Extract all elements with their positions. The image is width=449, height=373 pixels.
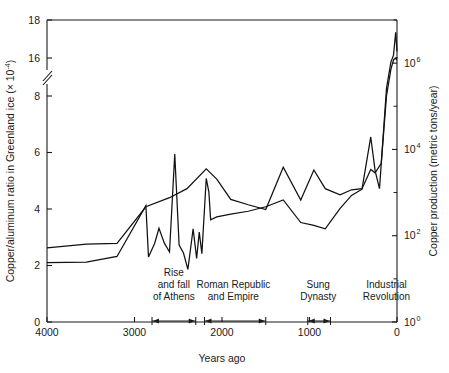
- annotation-industrial-revolution: IndustrialRevolution: [363, 279, 410, 302]
- y2-base: 10: [404, 229, 416, 241]
- x-ticklabel-4000: 4000: [35, 326, 59, 338]
- x-axis-title: Years ago: [199, 352, 246, 364]
- bracket-arrow-right: [259, 318, 265, 323]
- series-line-copper-production: [47, 57, 397, 248]
- y-axis-title-right: Copper production (metric tons/year): [427, 86, 439, 257]
- annotation-label-rise-and-fall-of-athens-line-3: of Athens: [153, 291, 195, 302]
- x-ticklabel-3000: 3000: [123, 326, 147, 338]
- chart-canvas: 02468161810010210410640003000200010000Ri…: [0, 0, 449, 373]
- bracket-arrow-right: [324, 318, 330, 323]
- y-axis-title-left: Copper/aluminum ratio in Greenland ice (…: [3, 60, 16, 283]
- annotation-label-sung-dynasty-line-1: Sung: [307, 279, 330, 290]
- annotation-sung-dynasty: SungDynasty: [300, 279, 336, 325]
- y2-base: 10: [404, 57, 416, 69]
- y-ticklabel-left-18: 18: [28, 14, 40, 26]
- y2-base: 10: [404, 143, 416, 155]
- y2-exponent: 6: [417, 55, 421, 64]
- y-ticklabel-left-8: 8: [34, 90, 40, 102]
- bracket-arrow-left: [153, 318, 159, 323]
- series-line-copper-aluminum-ratio: [47, 32, 397, 269]
- y2-base: 10: [404, 316, 416, 328]
- y-ticklabel-left-2: 2: [34, 259, 40, 271]
- annotation-bracket-roman-republic-and-empire: [205, 317, 266, 325]
- y-ticklabel-right-0: 100: [404, 314, 421, 328]
- bracket-arrow-left: [206, 318, 212, 323]
- y-axis-title-left-text: Copper/aluminum ratio in Greenland ice (…: [3, 60, 16, 283]
- y-axis-title-right-text: Copper production (metric tons/year): [427, 86, 439, 257]
- annotation-label-roman-republic-and-empire-line-1: Roman Republic: [196, 279, 270, 290]
- y2-exponent: 4: [417, 141, 421, 150]
- annotation-label-roman-republic-and-empire-line-2: and Empire: [208, 291, 260, 302]
- annotation-label-sung-dynasty-line-2: Dynasty: [300, 291, 336, 302]
- y2-exponent: 2: [417, 227, 421, 236]
- copper-ratio-chart-figure: 02468161810010210410640003000200010000Ri…: [0, 0, 449, 373]
- annotation-label-rise-and-fall-of-athens-line-1: Rise: [164, 267, 184, 278]
- y-ticklabel-left-4: 4: [34, 203, 40, 215]
- bracket-arrow-right: [189, 318, 195, 323]
- x-ticklabel-1000: 1000: [298, 326, 322, 338]
- x-ticklabel-0: 0: [394, 326, 400, 338]
- x-ticklabel-2000: 2000: [210, 326, 234, 338]
- y-ticklabel-right-2: 102: [404, 227, 421, 241]
- annotation-roman-republic-and-empire: Roman Republicand Empire: [196, 279, 270, 325]
- y-ticklabel-right-4: 104: [404, 141, 421, 155]
- y2-exponent: 0: [417, 314, 421, 323]
- annotation-label-rise-and-fall-of-athens-line-2: and fall: [158, 279, 190, 290]
- y-ticklabel-left-16: 16: [28, 52, 40, 64]
- annotation-bracket-sung-dynasty: [308, 317, 331, 325]
- annotation-label-industrial-revolution-line-1: Industrial: [366, 279, 407, 290]
- annotation-rise-and-fall-of-athens: Riseand fallof Athens: [152, 267, 196, 325]
- annotation-label-industrial-revolution-line-2: Revolution: [363, 291, 410, 302]
- y-ticklabel-left-6: 6: [34, 146, 40, 158]
- annotation-bracket-rise-and-fall-of-athens: [152, 317, 196, 325]
- y-ticklabel-right-6: 106: [404, 55, 421, 69]
